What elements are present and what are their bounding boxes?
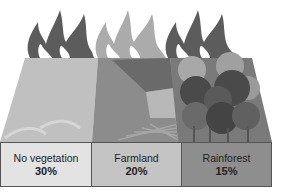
label-rainforest: Rainforest 15%: [182, 142, 272, 187]
flame-icon-left: [28, 10, 94, 58]
segment-name: No vegetation: [14, 152, 79, 165]
segment-percent: 20%: [125, 165, 147, 178]
segment-name: Farmland: [114, 152, 158, 165]
segment-percent: 15%: [215, 165, 237, 178]
label-no-vegetation: No vegetation 30%: [0, 142, 92, 187]
segment-name: Rainforest: [203, 152, 251, 165]
flame-icon-middle: [96, 10, 166, 58]
land-no-vegetation: [0, 58, 98, 142]
segment-labels: No vegetation 30% Farmland 20% Rainfores…: [0, 142, 272, 187]
flame-icon-right: [166, 10, 242, 58]
label-farmland: Farmland 20%: [92, 142, 182, 187]
segment-percent: 30%: [35, 165, 57, 178]
